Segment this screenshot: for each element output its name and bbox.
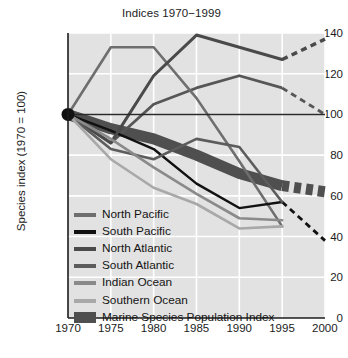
legend-label: South Pacific xyxy=(102,226,171,238)
legend-swatch-3 xyxy=(74,247,96,251)
legend-label: Marine Species Population Index xyxy=(102,312,274,324)
legend-item-north-pacific[interactable]: North Pacific xyxy=(74,206,274,223)
legend-item-south-pacific[interactable]: South Pacific xyxy=(74,223,274,240)
legend-label: North Pacific xyxy=(102,209,169,221)
legend-label: South Atlantic xyxy=(102,260,174,272)
legend-swatch-5 xyxy=(74,281,96,285)
legend-item-north-atlantic[interactable]: North Atlantic xyxy=(74,240,274,257)
legend-item-southern-ocean[interactable]: Southern Ocean xyxy=(74,292,274,309)
legend-item-indian-ocean[interactable]: Indian Ocean xyxy=(74,275,274,292)
legend-label: North Atlantic xyxy=(102,243,172,255)
legend-item-marine-species-population-index[interactable]: Marine Species Population Index xyxy=(74,309,274,326)
legend-item-south-atlantic[interactable]: South Atlantic xyxy=(74,258,274,275)
legend-label: Southern Ocean xyxy=(102,295,188,307)
legend-swatch-2 xyxy=(74,230,96,234)
legend-swatch-7 xyxy=(74,312,96,323)
legend-label: Indian Ocean xyxy=(102,277,172,289)
legend-swatch-1 xyxy=(74,213,96,217)
legend-swatch-4 xyxy=(74,264,96,268)
legend-swatch-6 xyxy=(74,299,96,303)
chart-legend: North PacificSouth PacificNorth Atlantic… xyxy=(74,206,274,326)
